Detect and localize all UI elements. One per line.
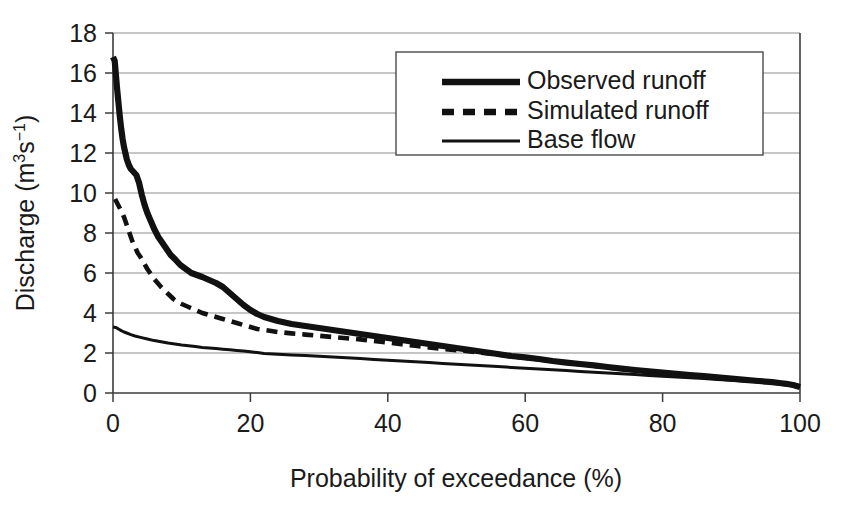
y-axis-title: Discharge (m3s−1) [11, 115, 39, 312]
chart-figure: 024681012141618 020406080100 Probability… [0, 0, 844, 509]
legend-label-observed-runoff: Observed runoff [527, 66, 706, 94]
legend-label-base-flow: Base flow [527, 125, 636, 153]
y-axis-title-main: Discharge (m [11, 163, 39, 312]
y-tick-label-14: 14 [69, 99, 97, 127]
y-tick-label-16: 16 [69, 59, 97, 87]
y-tick-label-12: 12 [69, 139, 97, 167]
y-tick-label-0: 0 [83, 379, 97, 407]
x-tick-label-0: 0 [106, 409, 120, 437]
y-axis-title-close-paren: ) [11, 115, 39, 123]
x-tick-label-100: 100 [779, 409, 821, 437]
x-tick-label-80: 80 [649, 409, 677, 437]
y-tick-label-18: 18 [69, 19, 97, 47]
y-tick-label-2: 2 [83, 339, 97, 367]
x-tick-label-60: 60 [511, 409, 539, 437]
y-tick-label-6: 6 [83, 259, 97, 287]
y-tick-label-8: 8 [83, 219, 97, 247]
y-axis-title-exponent-3: 3 [11, 154, 28, 163]
y-axis-title-exponent-minus1: −1 [11, 123, 28, 141]
x-axis-title: Probability of exceedance (%) [290, 464, 622, 492]
chart-legend: Observed runoff Simulated runoff Base fl… [396, 52, 763, 155]
y-tick-label-10: 10 [69, 179, 97, 207]
flow-duration-curve-chart: 024681012141618 020406080100 Probability… [0, 0, 844, 509]
x-tick-label-20: 20 [236, 409, 264, 437]
y-axis-title-s: s [11, 141, 39, 154]
y-tick-label-4: 4 [83, 299, 97, 327]
legend-label-simulated-runoff: Simulated runoff [527, 96, 709, 124]
x-tick-label-40: 40 [374, 409, 402, 437]
